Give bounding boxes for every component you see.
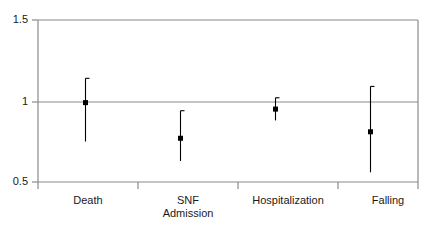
x-category-label-death-line1: Death <box>38 194 138 207</box>
data-point-marker <box>273 107 278 112</box>
x-category-label-falling: Falling <box>338 194 430 207</box>
x-category-label-hospitalization-line1: Hospitalization <box>238 194 338 207</box>
y-tick-label-lower: 0.5 <box>2 176 28 187</box>
y-axis-ticks <box>32 20 38 182</box>
error-bar-chart: 1.5 1 0.5 Death SNF Admission Hospitaliz… <box>0 0 430 230</box>
error-bar-hospitalization <box>273 98 280 121</box>
x-category-label-death: Death <box>38 194 138 207</box>
error-bar-death <box>83 78 90 141</box>
x-axis-ticks <box>38 182 418 189</box>
data-point-marker <box>178 136 183 141</box>
data-series-layer <box>83 78 375 172</box>
data-point-marker <box>83 100 88 105</box>
data-point-marker <box>368 129 373 134</box>
plot-frame <box>38 20 418 182</box>
error-bar-snf-admission <box>178 111 185 161</box>
x-category-label-hospitalization: Hospitalization <box>238 194 338 207</box>
x-category-label-snf-admission: SNF Admission <box>138 194 238 220</box>
x-category-label-snf-line1: SNF <box>138 194 238 207</box>
y-tick-label-upper: 1.5 <box>2 14 28 25</box>
x-category-label-snf-line2: Admission <box>138 207 238 220</box>
x-category-label-falling-line1: Falling <box>338 194 430 207</box>
error-bar-falling <box>368 86 375 172</box>
y-tick-label-middle: 1 <box>2 96 28 107</box>
